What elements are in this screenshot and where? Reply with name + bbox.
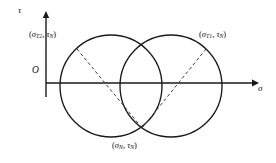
bottom-point-label: (σN, τN) bbox=[112, 141, 137, 151]
right-circle bbox=[120, 35, 222, 137]
sigma-axis bbox=[46, 80, 259, 87]
origin-label: O bbox=[32, 66, 39, 76]
left-point-label: (σT2, τN) bbox=[29, 30, 56, 40]
tau-axis bbox=[43, 11, 49, 97]
right-point-label: (σT1, τN) bbox=[199, 30, 226, 40]
left-paren-close: ) bbox=[53, 29, 56, 39]
mohr-circle-figure: τ σ O (σT2, τN) (σT1, τN) (σN, τN) bbox=[0, 0, 276, 163]
right-paren-close: ) bbox=[223, 29, 226, 39]
tau-axis-arrowhead bbox=[43, 11, 49, 18]
bottom-paren-close: ) bbox=[134, 140, 137, 150]
diagram-canvas bbox=[0, 0, 276, 163]
tau-axis-label: τ bbox=[18, 6, 21, 15]
left-dashed-chord bbox=[77, 49, 142, 128]
sigma-axis-label: σ bbox=[258, 84, 262, 93]
